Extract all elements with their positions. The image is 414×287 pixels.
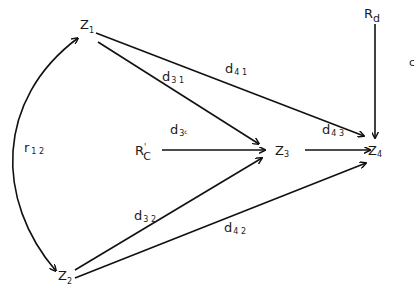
node-rc: R'C <box>135 143 151 163</box>
label-d31: d3 1 <box>162 69 184 85</box>
label-d42: d4 2 <box>224 220 246 236</box>
edge-d41 <box>96 33 364 136</box>
edge-d32 <box>75 158 262 270</box>
label-d3c: d3c <box>170 122 188 138</box>
node-z3: Z3 <box>275 143 289 159</box>
node-z1: Z1 <box>80 17 94 35</box>
label-d32: d3 2 <box>134 208 156 224</box>
label-d41: d4 1 <box>225 61 247 77</box>
label-r12: r1 2 <box>24 140 44 156</box>
path-diagram: Z1 Z2 Z3 Z4 R'C Rd c r1 2 d3 1 d4 1 d3c … <box>0 0 414 287</box>
edge-d42 <box>75 163 366 278</box>
node-z2: Z2 <box>58 268 72 286</box>
node-rd: Rd <box>364 6 380 25</box>
edge-r12-curve <box>13 38 78 271</box>
cut-label-c: c <box>409 56 414 69</box>
node-z4: Z4 <box>368 143 382 159</box>
